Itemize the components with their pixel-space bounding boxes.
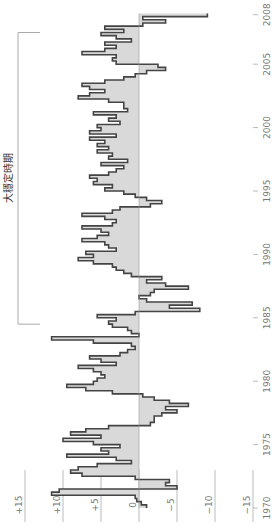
value-tick-label: +5 [90,498,100,511]
time-axis: 197019751980198519901995200020052008 [253,3,272,519]
bracket-line [18,33,40,325]
value-tick-label: +15 [14,496,24,515]
time-tick-label: 1990 [262,243,272,266]
time-tick-label: 1970 [262,496,272,519]
time-tick-label: 2005 [262,53,272,76]
time-tick-label: 1975 [262,433,272,456]
value-tick-label: −15 [242,496,252,515]
time-tick-label: 2008 [262,3,272,26]
time-tick-label: 1980 [262,369,272,392]
chart: +15+10+50−5−10−15 1970197519801985199019… [0,0,278,528]
time-tick-label: 1995 [262,180,272,203]
time-tick-label: 1985 [262,306,272,329]
annotation-bracket: 大穩定時期 [2,33,40,325]
value-tick-label: 0 [128,502,138,508]
time-tick-label: 2000 [262,116,272,139]
data-area [52,13,208,508]
value-tick-label: −10 [204,495,214,514]
value-tick-label: +10 [52,495,62,514]
annotation-label: 大穩定時期 [2,153,14,203]
value-tick-label: −5 [166,498,176,511]
